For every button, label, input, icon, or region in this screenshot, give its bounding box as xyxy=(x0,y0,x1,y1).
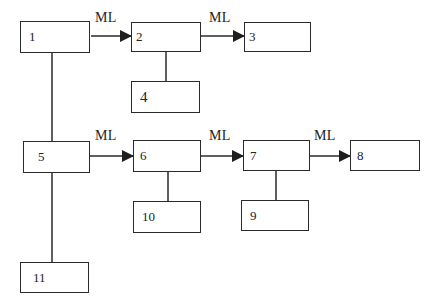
node-4: 4 xyxy=(131,81,200,113)
node-10: 10 xyxy=(133,201,201,233)
node-label: 4 xyxy=(140,89,148,106)
node-label: 1 xyxy=(29,29,36,45)
node-label: 11 xyxy=(33,270,46,286)
node-label: 6 xyxy=(140,148,147,164)
node-label: 10 xyxy=(142,209,155,225)
edge-label-1-2: ML xyxy=(95,10,117,26)
node-6: 6 xyxy=(133,140,201,172)
node-label: 5 xyxy=(38,149,45,165)
edge-label-2-3: ML xyxy=(209,10,231,26)
edge-label-6-7: ML xyxy=(209,128,231,144)
node-3: 3 xyxy=(244,22,311,52)
node-label: 8 xyxy=(357,148,364,164)
node-7: 7 xyxy=(243,140,310,171)
node-5: 5 xyxy=(23,141,90,173)
node-8: 8 xyxy=(350,140,420,171)
node-label: 3 xyxy=(249,29,256,45)
node-label: 7 xyxy=(250,148,257,164)
node-2: 2 xyxy=(131,22,201,52)
node-label: 9 xyxy=(250,208,257,224)
edge-label-5-6: ML xyxy=(95,128,117,144)
node-label: 2 xyxy=(136,29,143,45)
node-1: 1 xyxy=(20,21,90,53)
node-11: 11 xyxy=(20,262,89,293)
node-9: 9 xyxy=(241,200,309,231)
edge-label-7-8: ML xyxy=(314,128,336,144)
